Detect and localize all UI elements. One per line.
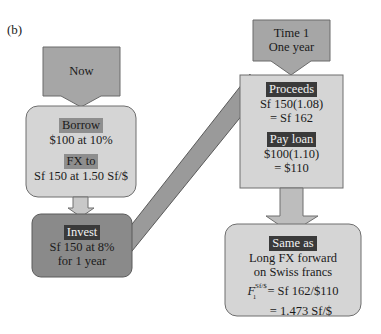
invest-term: for 1 year <box>32 254 132 268</box>
forward-label: Long FX forward <box>225 251 361 265</box>
time1-arrow: Time 1 One year <box>253 26 330 54</box>
invest-tag: Invest <box>64 225 101 240</box>
proceeds-tag: Proceeds <box>266 82 317 97</box>
pay-loan-calc: $100(1.10) <box>240 147 343 161</box>
now-label: Now <box>43 64 120 78</box>
pay-loan-result: = $110 <box>240 161 343 175</box>
borrow-tag: Borrow <box>59 118 103 133</box>
invest-box: Invest Sf 150 at 8% for 1 year <box>32 225 132 268</box>
proceeds-calc: Sf 150(1.08) <box>240 97 343 111</box>
forward-formula: FSf/$1 = Sf 162/$110 <box>225 279 361 304</box>
borrow-amount: $100 at 10% <box>26 133 136 147</box>
now-arrow: Now <box>43 64 120 78</box>
same-as-box: Same as Long FX forward on Swiss francs … <box>225 236 361 318</box>
borrow-box: Borrow $100 at 10% FX to Sf 150 at 1.50 … <box>26 118 136 183</box>
time1-label: Time 1 <box>253 26 330 40</box>
proceeds-box: Proceeds Sf 150(1.08) = Sf 162 Pay loan … <box>240 82 343 175</box>
one-year-label: One year <box>253 40 330 54</box>
francs-label: on Swiss francs <box>225 265 361 279</box>
formula-rhs: = Sf 162/$110 <box>264 284 338 298</box>
proceeds-result: = Sf 162 <box>240 111 343 125</box>
pay-loan-tag: Pay loan <box>267 132 316 147</box>
fx-tag: FX to <box>64 154 99 169</box>
panel-label: (b) <box>7 22 22 38</box>
forward-rate: = 1.473 Sf/$ <box>225 304 361 318</box>
formula-sub: 1 <box>253 293 257 301</box>
fx-amount: Sf 150 at 1.50 Sf/$ <box>26 169 136 183</box>
same-as-tag: Same as <box>269 236 316 251</box>
invest-amount: Sf 150 at 8% <box>32 240 132 254</box>
